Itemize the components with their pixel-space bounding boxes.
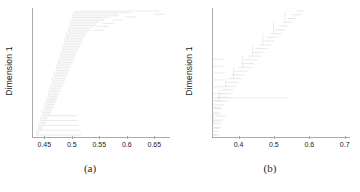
panel-b-ticklabel-2: 0.6 bbox=[304, 141, 314, 148]
panel-a-ticklabel-3: 0.6 bbox=[122, 141, 132, 148]
panel-a-ticklabel-2: 0.55 bbox=[92, 141, 106, 148]
panel-a-ticklabel-1: 0.5 bbox=[67, 141, 77, 148]
panel-b-plot: Dimension 1 0.4 0.5 0.6 0.7 bbox=[180, 0, 360, 160]
dendrogram-figure: Dimension 1 0.45 0.5 0.55 0.6 0.65 bbox=[0, 0, 360, 192]
panel-a-y-axis-label: Dimension 1 bbox=[2, 18, 16, 124]
panel-a-ticklabel-0: 0.45 bbox=[37, 141, 51, 148]
panel-b-y-axis-label: Dimension 1 bbox=[182, 18, 196, 124]
panel-b-y-axis-label-text: Dimension 1 bbox=[184, 46, 194, 95]
panel-b-ticklabel-1: 0.5 bbox=[269, 141, 279, 148]
panel-b-dendrogram-svg bbox=[212, 8, 350, 138]
panel-a-y-axis-label-text: Dimension 1 bbox=[4, 46, 14, 95]
panel-a-data-canvas bbox=[32, 8, 170, 138]
panel-b-ticklabel-3: 0.7 bbox=[340, 141, 350, 148]
panel-b-data-canvas bbox=[212, 8, 350, 138]
panel-a-dendrogram-svg bbox=[32, 8, 170, 138]
panel-b-caption: (b) bbox=[180, 162, 360, 174]
panel-a-ticklabel-4: 0.65 bbox=[147, 141, 161, 148]
panel-a-axes: 0.45 0.5 0.55 0.6 0.65 bbox=[32, 8, 170, 138]
panel-a: Dimension 1 0.45 0.5 0.55 0.6 0.65 bbox=[0, 0, 180, 192]
panel-a-caption: (a) bbox=[0, 162, 180, 174]
panel-b-ticklabel-0: 0.4 bbox=[234, 141, 244, 148]
panel-a-plot: Dimension 1 0.45 0.5 0.55 0.6 0.65 bbox=[0, 0, 180, 160]
panel-b: Dimension 1 0.4 0.5 0.6 0.7 (b) bbox=[180, 0, 360, 192]
panel-b-axes: 0.4 0.5 0.6 0.7 bbox=[212, 8, 350, 138]
